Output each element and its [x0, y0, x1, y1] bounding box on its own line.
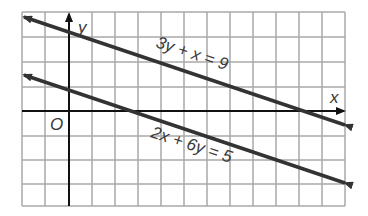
y-axis-label: y	[77, 18, 88, 37]
graph-canvas: y x O 3y + x = 9 2x + 6y = 5	[0, 0, 368, 216]
x-axis-label: x	[329, 88, 339, 107]
equation-label-1: 3y + x = 9	[154, 33, 231, 74]
origin-label: O	[50, 115, 63, 134]
